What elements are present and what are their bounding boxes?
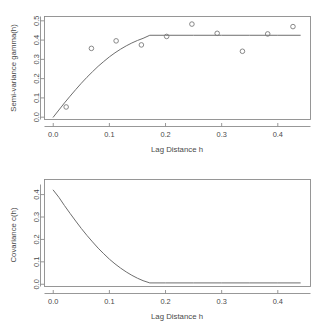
model-curve-top — [53, 35, 300, 117]
svg-text:0.2: 0.2 — [32, 73, 41, 83]
svg-text:0.1: 0.1 — [104, 297, 114, 306]
svg-text:0.1: 0.1 — [32, 257, 41, 267]
svg-text:0.4: 0.4 — [32, 189, 41, 199]
svg-text:0.0: 0.0 — [48, 297, 58, 306]
svg-text:0.1: 0.1 — [32, 93, 41, 103]
svg-text:0.4: 0.4 — [32, 35, 41, 45]
y-ticks-top: 0.00.10.20.30.40.5 — [32, 16, 44, 123]
y-axis-title-bottom: Covariance c(h) — [9, 207, 18, 262]
svg-text:0.3: 0.3 — [32, 212, 41, 222]
y-axis-title-top: Semi-variance gamma(h) — [9, 24, 18, 112]
svg-text:0.3: 0.3 — [217, 130, 227, 139]
svg-text:0.1: 0.1 — [104, 130, 114, 139]
svg-text:0.0: 0.0 — [32, 112, 41, 122]
x-ticks-bottom: 0.00.10.20.30.4 — [48, 290, 283, 306]
svg-text:0.0: 0.0 — [32, 279, 41, 289]
variogram-figure: 0.00.10.20.30.40.5 0.00.10.20.30.4 Lag D… — [0, 0, 324, 332]
covariance-curve — [53, 190, 300, 283]
plot-box-top — [45, 17, 311, 120]
x-axis-title-bottom: Lag Distance h — [151, 312, 203, 321]
svg-text:0.5: 0.5 — [32, 16, 41, 26]
semi-variance-variogram-plot: 0.00.10.20.30.40.5 0.00.10.20.30.4 Lag D… — [0, 0, 324, 166]
y-ticks-bottom: 0.00.10.20.30.4 — [32, 189, 44, 289]
svg-text:0.3: 0.3 — [32, 54, 41, 64]
svg-text:0.4: 0.4 — [273, 297, 283, 306]
x-ticks-top: 0.00.10.20.30.4 — [48, 123, 283, 139]
svg-text:0.2: 0.2 — [160, 297, 170, 306]
svg-text:0.2: 0.2 — [160, 130, 170, 139]
svg-text:0.3: 0.3 — [217, 297, 227, 306]
svg-text:0.4: 0.4 — [273, 130, 283, 139]
x-axis-title-top: Lag Distance h — [151, 145, 203, 154]
covariance-plot: 0.00.10.20.30.4 0.00.10.20.30.4 Lag Dist… — [0, 166, 324, 332]
svg-text:0.2: 0.2 — [32, 234, 41, 244]
svg-text:0.0: 0.0 — [48, 130, 58, 139]
